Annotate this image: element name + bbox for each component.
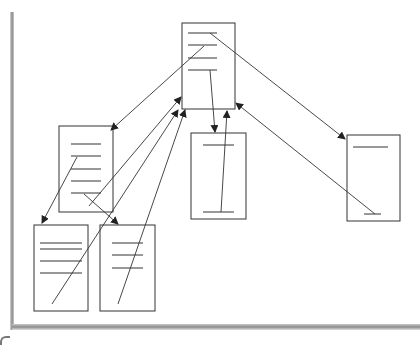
document-nodes (34, 23, 400, 311)
document-node-middle (191, 133, 246, 219)
document-node-right (347, 135, 400, 221)
document-node-left (59, 126, 113, 212)
document-box (191, 133, 246, 219)
document-node-top (182, 23, 235, 109)
document-node-bottom-left (34, 225, 88, 311)
document-box (34, 225, 88, 311)
document-box (182, 23, 235, 109)
document-node-bottom-mid (100, 225, 155, 311)
document-box (347, 135, 400, 221)
